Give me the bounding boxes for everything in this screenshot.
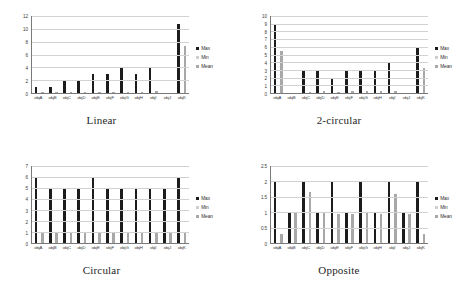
x-tick-label: objH (371, 245, 385, 251)
y-tick-label: 5 (265, 53, 267, 58)
panel-linear: 024681012 objAobjBobjCobjDobjEobjFobjGob… (0, 0, 237, 150)
panel-title-opposite: Opposite (237, 264, 441, 277)
legend-opposite: MaxMinMean (435, 194, 475, 221)
y-tick-label: 2 (265, 76, 267, 81)
legend-label: Max (440, 196, 449, 202)
grid-line (271, 55, 428, 56)
x-axis-linear: objAobjBobjCobjDobjEobjFobjGobjHobjIobjJ… (31, 95, 189, 101)
legend-label: Min (201, 205, 208, 211)
legend-item: Min (196, 203, 236, 212)
x-tick-label: objI (385, 95, 399, 101)
legend-label: Min (201, 55, 208, 61)
bar-mean (98, 232, 101, 243)
grid-line (271, 24, 428, 25)
chart-linear: 024681012 objAobjBobjCobjDobjEobjFobjGob… (0, 6, 237, 110)
x-tick-label: objB (45, 245, 59, 251)
bar-max (163, 189, 166, 243)
bar-mean (351, 91, 354, 93)
legend-swatch-icon (435, 206, 438, 209)
grid-line (32, 221, 189, 222)
grid-line (32, 67, 189, 68)
chart-two-circular: 012345678910 objAobjBobjCobjDobjEobjFobj… (237, 6, 475, 110)
grid-line (32, 80, 189, 81)
plot-wrap-circular: 01234567 (14, 166, 189, 244)
x-tick-label: objA (270, 95, 284, 101)
y-tick-label: 3 (265, 68, 267, 73)
legend-label: Max (440, 46, 449, 52)
y-tick-label: 2 (26, 219, 28, 224)
grid-line (32, 55, 189, 56)
legend-item: Mean (196, 62, 236, 71)
grid-line (271, 228, 428, 229)
x-tick-label: objD (74, 95, 88, 101)
grid-line (32, 29, 189, 30)
y-tick-label: 7 (265, 37, 267, 42)
x-tick-label: objF (342, 95, 356, 101)
bar-mean (309, 92, 312, 93)
bar-mean (84, 92, 87, 93)
x-tick-label: objE (327, 95, 341, 101)
legend-swatch-icon (196, 206, 199, 209)
legend-swatch-icon (196, 65, 199, 68)
y-tick-label: 0 (26, 242, 28, 247)
legend-label: Mean (440, 64, 452, 70)
legend-item: Max (196, 44, 236, 53)
x-tick-label: objI (146, 245, 160, 251)
bar-mean (55, 232, 58, 243)
panel-title-circular: Circular (0, 264, 203, 277)
bar-mean (423, 234, 426, 243)
bar-max (359, 71, 362, 93)
grid-line (271, 70, 428, 71)
x-tick-label: objE (327, 245, 341, 251)
y-tick-label: 2.5 (261, 164, 267, 169)
x-axis-circular: objAobjBobjCobjDobjEobjFobjGobjHobjIobjJ… (31, 245, 189, 251)
bar-max (63, 188, 66, 243)
x-tick-label: objC (60, 95, 74, 101)
legend-item: Max (435, 44, 475, 53)
legend-label: Mean (201, 64, 213, 70)
legend-label: Mean (440, 214, 452, 220)
grid-line (271, 181, 428, 182)
x-tick-label: objB (284, 95, 298, 101)
bar-group (385, 166, 399, 243)
grid-line (271, 212, 428, 213)
plot-opposite (270, 166, 428, 244)
legend-circular: MaxMinMean (196, 194, 236, 221)
bar-max (35, 87, 38, 93)
legend-swatch-icon (196, 197, 199, 200)
bar-max (92, 74, 95, 93)
grid-line (32, 42, 189, 43)
x-axis-opposite: objAobjBobjCobjDobjEobjFobjGobjHobjIobjJ… (270, 245, 428, 251)
y-tick-label: 1 (265, 210, 267, 215)
bar-mean (70, 232, 73, 243)
bar-groups-opposite (271, 166, 428, 243)
bar-max (63, 80, 66, 93)
plot-circular (31, 166, 189, 244)
x-tick-label: objG (117, 245, 131, 251)
grid-line (271, 78, 428, 79)
grid-line (32, 166, 189, 167)
panel-two-circular: 012345678910 objAobjBobjCobjDobjEobjFobj… (237, 0, 475, 150)
x-tick-label: objG (356, 245, 370, 251)
legend-item: Max (435, 194, 475, 203)
y-tick-label: 4 (26, 197, 28, 202)
bar-mean (41, 92, 44, 93)
bar-group (314, 166, 328, 243)
grid-line (32, 16, 189, 17)
bar-mean (184, 46, 187, 93)
legend-item: Min (196, 53, 236, 62)
bar-max (106, 188, 109, 243)
bar-mean (366, 91, 369, 93)
chart-circular: 01234567 objAobjBobjCobjDobjEobjFobjGobj… (0, 156, 237, 260)
plot-linear (31, 16, 189, 94)
y-tick-label: 12 (23, 14, 28, 19)
grid-line (32, 199, 189, 200)
bar-mean (394, 194, 397, 243)
legend-swatch-icon (196, 215, 199, 218)
y-tick-label: 0 (265, 92, 267, 97)
bar-group (271, 166, 285, 243)
x-tick-label: objD (313, 245, 327, 251)
bar-mean (155, 91, 158, 93)
x-axis-two-circular: objAobjBobjCobjDobjEobjFobjGobjHobjIobjJ… (270, 95, 428, 101)
bar-max (77, 80, 80, 93)
